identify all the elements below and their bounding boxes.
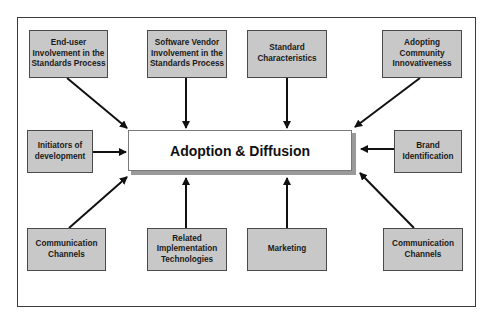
factor-related-implementation-technologies: Related Implementation Technologies — [147, 228, 227, 271]
factor-communication-channels-left: Communication Channels — [27, 228, 106, 271]
factor-label: Communication Channels — [384, 239, 462, 260]
factor-label: Adopting Community Innovativeness — [383, 38, 461, 70]
factor-initiators-of-development: Initiators of development — [27, 130, 93, 173]
arrow-top-1 — [67, 78, 127, 128]
factor-label: Related Implementation Technologies — [148, 234, 226, 266]
factor-end-user-involvement: End-user Involvement in the Standards Pr… — [29, 30, 108, 78]
factor-adopting-community-innovativeness: Adopting Community Innovativeness — [382, 30, 462, 78]
factor-label: Marketing — [268, 244, 307, 255]
factor-label: Software Vendor Involvement in the Stand… — [148, 38, 226, 70]
center-label: Adoption & Diffusion — [170, 143, 310, 159]
factor-label: End-user Involvement in the Standards Pr… — [30, 38, 107, 70]
factor-label: Brand Identification — [395, 141, 461, 162]
factor-software-vendor-involvement: Software Vendor Involvement in the Stand… — [147, 30, 227, 78]
center-shadow-bottom — [131, 171, 355, 175]
factor-marketing: Marketing — [247, 228, 327, 271]
arrow-bottom-4 — [360, 173, 414, 228]
factor-standard-characteristics: Standard Characteristics — [247, 30, 327, 78]
factor-brand-identification: Brand Identification — [394, 130, 462, 173]
center-shadow-right — [352, 133, 356, 175]
factor-label: Communication Channels — [28, 239, 105, 260]
adoption-diffusion-box: Adoption & Diffusion — [128, 130, 352, 171]
arrow-top-4 — [355, 78, 420, 127]
factor-label: Standard Characteristics — [248, 43, 326, 64]
factor-communication-channels-right: Communication Channels — [383, 228, 463, 271]
factor-label: Initiators of development — [28, 141, 92, 162]
arrow-bottom-1 — [69, 177, 127, 228]
